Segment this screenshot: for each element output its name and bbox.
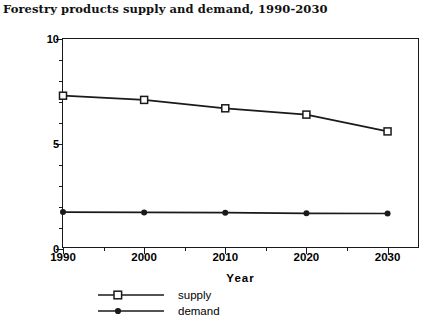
data-point-supply xyxy=(60,92,67,99)
data-point-demand xyxy=(222,210,228,216)
x-tick-label: 2000 xyxy=(131,251,157,263)
data-point-demand xyxy=(303,210,309,216)
plot-area: 0510 19902000201020202030 xyxy=(62,38,419,248)
data-point-supply xyxy=(222,105,229,112)
legend-item-demand: demand xyxy=(96,303,296,319)
series-line-supply xyxy=(63,96,388,132)
data-point-demand xyxy=(141,209,147,215)
chart-title: Forestry products supply and demand, 199… xyxy=(3,2,328,16)
x-tick-label: 2030 xyxy=(375,251,401,263)
x-tick-label: 1990 xyxy=(50,251,76,263)
data-point-supply xyxy=(141,96,148,103)
legend-swatch-demand xyxy=(96,303,166,319)
x-tick-label: 2010 xyxy=(212,251,238,263)
y-tick-label: 5 xyxy=(53,138,59,150)
legend-swatch-supply xyxy=(96,287,166,303)
data-series-layer xyxy=(63,39,420,249)
x-axis-label: Year xyxy=(62,272,419,284)
legend-label-supply: supply xyxy=(178,287,211,303)
legend-item-supply: supply xyxy=(96,287,296,303)
chart-legend: supply demand xyxy=(96,287,296,319)
legend-label-demand: demand xyxy=(178,303,220,319)
y-tick-label: 10 xyxy=(47,33,59,45)
x-tick-label: 2020 xyxy=(294,251,320,263)
data-point-demand xyxy=(60,209,66,215)
data-point-supply xyxy=(303,111,310,118)
data-point-demand xyxy=(385,211,391,217)
data-point-supply xyxy=(384,128,391,135)
